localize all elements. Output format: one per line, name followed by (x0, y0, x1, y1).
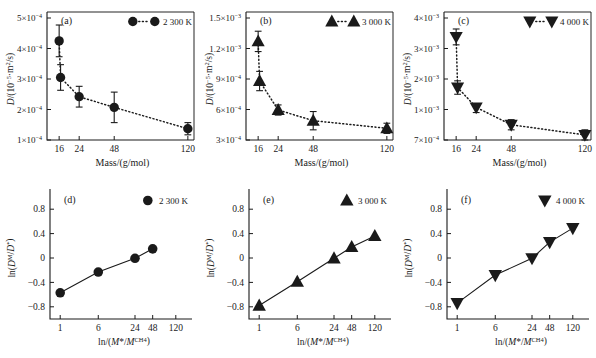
chart-panel-f: −0.8−0.400.40.8162448120(f)4 000 Kln/(M*… (397, 179, 595, 358)
x-tick-label: 120 (367, 323, 382, 333)
legend-marker-2 (546, 17, 559, 29)
panel-label-c: (c) (458, 15, 469, 27)
data-point-e-3 (345, 240, 358, 252)
axis-frame-top-right (444, 12, 591, 140)
y-tick-label: 5×10−4 (17, 13, 42, 23)
data-point-f-0 (451, 298, 464, 310)
y-tick-label: 1×10−4 (17, 135, 42, 145)
series-fit-line (458, 228, 574, 303)
x-axis-title: Mass/(g/mol) (294, 157, 348, 169)
axis-spines (246, 12, 393, 140)
chart-panel-d: −0.8−0.400.40.8162448120(d)2 300 Kln/(M*… (0, 179, 198, 358)
y-tick-label: −0.4 (226, 278, 243, 288)
y-tick-label: −0.4 (425, 278, 442, 288)
data-point-c-2 (470, 102, 483, 114)
y-tick-label: 9×10−4 (216, 74, 241, 84)
legend-e: 3 000 K (340, 193, 387, 205)
x-tick-label: 16 (452, 144, 462, 154)
x-tick-label: 48 (308, 144, 318, 154)
x-tick-label: 16 (253, 144, 263, 154)
axis-spines (447, 189, 589, 319)
x-tick-label: 24 (74, 144, 84, 154)
data-point-f-3 (543, 237, 556, 249)
axis-spines (444, 12, 591, 140)
data-point-d-1 (93, 267, 103, 277)
x-tick-label: 120 (379, 144, 394, 154)
data-point-d-3 (148, 244, 158, 254)
y-tick-label: −0.8 (226, 302, 243, 312)
y-tick-label: 3×10−4 (216, 135, 241, 145)
legend-marker (538, 195, 551, 207)
data-point-c-0 (450, 32, 463, 44)
x-tick-label: 24 (130, 323, 140, 333)
legend-f: 4 000 K (538, 195, 585, 207)
chart-panel-e: −0.8−0.400.40.8162448120(e)3 000 Kln/(M*… (199, 179, 397, 358)
y-axis-title: D/(10−5·m2/s) (401, 53, 414, 106)
data-point-a-1 (56, 73, 65, 82)
legend-label: 4 000 K (556, 196, 586, 206)
legend-marker-1 (524, 17, 537, 29)
y-tick-label: −0.4 (28, 278, 45, 288)
plot-area-e: −0.8−0.400.40.8162448120(e)3 000 Kln/(M*… (203, 189, 390, 348)
axis-frame-top-right (47, 12, 194, 140)
x-tick-label: 48 (507, 144, 517, 154)
data-point-e-0 (252, 299, 265, 311)
data-point-e-4 (368, 229, 381, 241)
y-tick-label: 6×10−4 (216, 105, 241, 115)
panel-label-a: (a) (61, 15, 72, 27)
axis-spines (47, 12, 194, 140)
x-tick-label: 48 (148, 323, 158, 333)
panel-label-d: (d) (64, 194, 76, 206)
y-tick-label: 2×10−3 (414, 74, 439, 84)
panel-label-b: (b) (260, 15, 272, 27)
y-tick-label: 0.4 (232, 229, 244, 239)
chart-panel-b: 3×10−46×10−49×10−41.2×10−31.5×10−3162448… (199, 0, 397, 179)
x-tick-label: 24 (528, 323, 538, 333)
x-axis-title: ln/(M*/MCH4) (98, 336, 150, 348)
y-tick-label: 0.4 (430, 229, 442, 239)
x-tick-label: 120 (181, 144, 196, 154)
y-axis-title: D/(10−5·m2/s) (203, 53, 216, 106)
x-tick-label: 48 (347, 323, 357, 333)
chart-panel-a: 1×10−42×10−43×10−44×10−45×10−4162448120(… (0, 0, 198, 179)
x-tick-label: 24 (472, 144, 482, 154)
legend-d: 2 300 K (143, 196, 188, 206)
x-tick-label: 1 (256, 323, 261, 333)
plot-area-c: 7×10−41×10−32×10−33×10−34×10−3162448120(… (401, 12, 592, 169)
data-point-a-4 (183, 124, 192, 133)
legend-a: 2 300 K (128, 17, 192, 27)
x-tick-label: 6 (96, 323, 101, 333)
y-axis-title: ln(DM/D*) (5, 238, 18, 277)
legend-marker-2 (150, 17, 159, 26)
legend-label: 3 000 K (362, 17, 392, 27)
x-axis-title: ln/(M*/MCH4) (495, 336, 547, 348)
axis-spines (249, 189, 391, 319)
y-tick-label: 0.8 (232, 204, 244, 214)
data-point-f-4 (566, 223, 579, 235)
legend-c: 4 000 K (524, 17, 590, 29)
y-tick-label: 1×10−3 (414, 105, 439, 115)
y-tick-label: 0.8 (33, 204, 45, 214)
legend-label: 2 300 K (163, 17, 193, 27)
data-point-b-2 (271, 103, 284, 115)
x-tick-label: 24 (273, 144, 283, 154)
data-point-a-0 (54, 36, 63, 45)
y-axis-title: D/(10−5·m2/s) (4, 53, 17, 106)
data-point-b-3 (306, 114, 319, 126)
figure-panel-grid: 1×10−42×10−43×10−44×10−45×10−4162448120(… (0, 0, 596, 358)
legend-b: 3 000 K (325, 15, 391, 27)
legend-marker (340, 193, 353, 205)
x-tick-label: 48 (109, 144, 119, 154)
y-tick-label: 3×10−3 (414, 44, 439, 54)
data-point-a-3 (110, 103, 119, 112)
y-tick-label: −0.8 (425, 302, 442, 312)
y-tick-label: −0.8 (28, 302, 45, 312)
y-tick-label: 4×10−3 (414, 13, 439, 23)
plot-area-d: −0.8−0.400.40.8162448120(d)2 300 Kln/(M*… (5, 189, 192, 348)
y-axis-title: ln(DM/D*) (402, 238, 415, 277)
legend-marker (143, 196, 153, 206)
data-point-b-1 (253, 74, 266, 86)
x-tick-label: 6 (295, 323, 300, 333)
data-point-f-2 (526, 253, 539, 265)
plot-area-f: −0.8−0.400.40.8162448120(f)4 000 Kln/(M*… (402, 189, 589, 348)
